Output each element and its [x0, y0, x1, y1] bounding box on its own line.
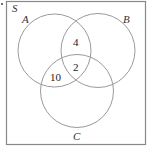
- region-abc-value: 2: [73, 61, 79, 73]
- corner-dot: [1, 3, 3, 5]
- universal-set-label: S: [12, 2, 18, 14]
- venn-diagram: S A B C 4 2 10: [0, 0, 148, 147]
- region-ac-only-value: 10: [50, 71, 62, 83]
- set-a-label: A: [21, 13, 29, 25]
- set-c-label: C: [73, 130, 81, 142]
- set-b-label: B: [123, 13, 130, 25]
- region-ab-only-value: 4: [73, 36, 79, 48]
